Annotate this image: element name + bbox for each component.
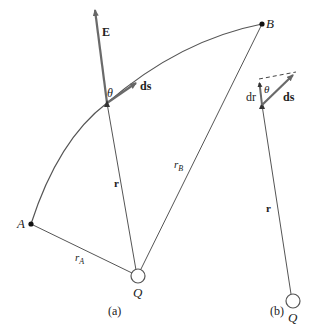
- r-line-b: [262, 105, 291, 294]
- r-line: [107, 103, 136, 270]
- caption-b: (b): [270, 304, 284, 318]
- dr-vector: [260, 83, 263, 105]
- rB-line: [141, 24, 262, 269]
- label-ds-b: ds: [283, 90, 295, 104]
- e-field-vector: [95, 10, 107, 103]
- electric-potential-diagram: E θ ds r rB rA A B Q (a) dr θ ds r: [0, 0, 319, 334]
- label-dr-text: dr: [246, 90, 256, 104]
- label-q-a: Q: [133, 285, 143, 300]
- label-dr: dr: [246, 90, 256, 104]
- panel-b: dr θ ds r Q (b): [246, 72, 300, 325]
- label-rB: rB: [174, 158, 183, 173]
- panel-a: E θ ds r rB rA A B Q (a): [16, 10, 274, 318]
- label-ds-a: ds: [140, 79, 152, 93]
- label-theta-a: θ: [107, 86, 113, 100]
- label-a-point: A: [16, 216, 25, 231]
- label-rA: rA: [75, 251, 84, 266]
- label-r-b: r: [266, 202, 271, 214]
- label-rA-sub: A: [78, 257, 84, 266]
- label-rB-sub: B: [178, 164, 183, 173]
- point-a: [28, 221, 33, 226]
- caption-a: (a): [108, 304, 121, 318]
- label-q-b: Q: [288, 310, 298, 325]
- charge-q-a: [131, 269, 145, 283]
- charge-q-b: [286, 294, 300, 308]
- label-b-point: B: [266, 16, 274, 31]
- path-curve-a-to-b: [31, 24, 262, 224]
- point-b: [259, 21, 264, 26]
- label-r-a: r: [114, 177, 119, 189]
- label-e: E: [102, 25, 110, 39]
- label-theta-b: θ: [264, 83, 270, 95]
